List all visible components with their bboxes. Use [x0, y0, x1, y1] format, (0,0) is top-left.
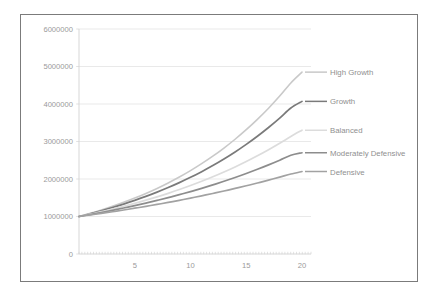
legend-item-label: Balanced: [330, 126, 363, 135]
legend-item-label: Growth: [330, 97, 355, 106]
y-axis-tick-label: 6000000: [43, 25, 73, 34]
line-chart: 0100000020000003000000400000050000006000…: [21, 15, 417, 281]
x-axis-tick-label: 5: [133, 261, 137, 270]
x-axis-tick-label: 10: [186, 261, 194, 270]
series-line-high-growth: [79, 72, 302, 216]
chart-frame: 0100000020000003000000400000050000006000…: [20, 14, 418, 282]
legend-item[interactable]: Growth: [305, 97, 355, 106]
y-axis-tick-label: 3000000: [43, 137, 73, 146]
y-axis-tick-label: 1000000: [43, 212, 73, 221]
x-axis-tick-label: 15: [242, 261, 250, 270]
y-axis-tick-label: 0: [69, 250, 73, 259]
y-axis-tick-label: 4000000: [43, 100, 73, 109]
gridlines-group: [79, 29, 311, 217]
series-line-balanced: [79, 130, 302, 216]
x-axis-labels: 5101520: [133, 261, 307, 270]
legend-item[interactable]: Balanced: [305, 126, 363, 135]
y-axis-tick-label: 2000000: [43, 175, 73, 184]
legend-item-label: Moderately Defensive: [330, 149, 405, 158]
legend-item[interactable]: Defensive: [305, 168, 365, 177]
y-axis-tick-label: 5000000: [43, 62, 73, 71]
legend-group: High GrowthGrowthBalancedModerately Defe…: [305, 68, 405, 176]
series-line-growth: [79, 101, 302, 216]
legend-item[interactable]: High Growth: [305, 68, 373, 77]
legend-item[interactable]: Moderately Defensive: [305, 149, 405, 158]
y-axis-labels: 0100000020000003000000400000050000006000…: [43, 25, 73, 259]
legend-item-label: High Growth: [330, 68, 373, 77]
legend-item-label: Defensive: [330, 168, 365, 177]
x-axis-tick-label: 20: [298, 261, 306, 270]
series-group: [79, 72, 302, 216]
